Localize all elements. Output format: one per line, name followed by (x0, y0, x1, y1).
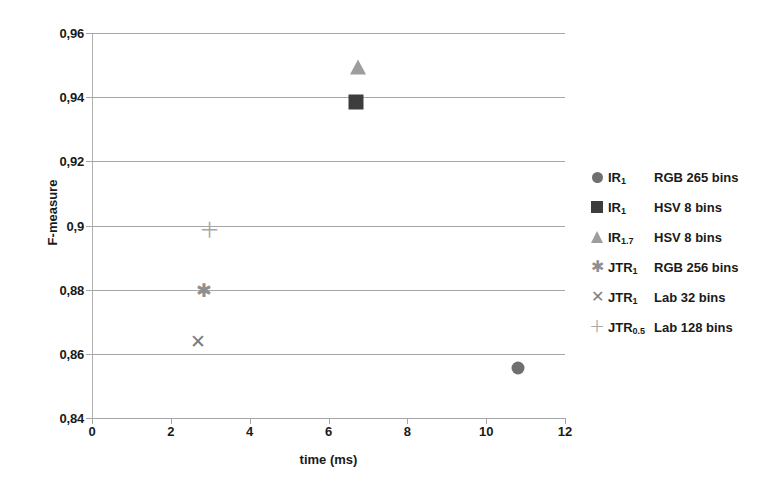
legend-marker-square-filled-icon (588, 198, 606, 216)
legend-key: JTR1 (606, 260, 654, 275)
x-tick-label: 4 (246, 424, 253, 439)
y-tick-label: 0,88 (59, 282, 84, 297)
legend-key: IR1 (606, 200, 654, 215)
x-tick-label: 12 (558, 424, 572, 439)
legend-description: HSV 8 bins (654, 230, 722, 245)
data-point-1 (349, 94, 364, 109)
data-point-0 (511, 361, 524, 374)
legend-key: JTR1 (606, 290, 654, 305)
x-axis-title: time (ms) (92, 452, 565, 467)
legend-marker-shape: ✕ (591, 289, 604, 305)
y-tick-mark (86, 97, 92, 98)
plot-area: ✱✕＋ (92, 33, 565, 418)
legend-marker-shape (591, 201, 603, 213)
gridline (92, 33, 565, 34)
y-tick-mark (86, 354, 92, 355)
legend-key-subscript: 1 (633, 296, 638, 306)
gridline (92, 97, 565, 98)
y-tick-mark (86, 161, 92, 162)
y-tick-label: 0,9 (67, 218, 84, 233)
legend-marker-plus-icon: ＋ (588, 318, 606, 336)
legend-key: IR1.7 (606, 230, 654, 245)
data-point-2 (350, 59, 366, 74)
y-tick-label: 0,96 (59, 26, 84, 41)
legend-row[interactable]: ✱JTR1RGB 256 bins (588, 252, 759, 282)
legend-row[interactable]: ＋JTR0.5Lab 128 bins (588, 312, 759, 342)
legend-marker-shape (591, 231, 603, 243)
legend-marker-triangle-filled-icon (588, 228, 606, 246)
legend-description: Lab 128 bins (654, 320, 733, 335)
legend-key: IR1 (606, 170, 654, 185)
y-tick-label: 0,84 (59, 411, 84, 426)
y-tick-mark (86, 290, 92, 291)
gridline (92, 290, 565, 291)
legend-description: Lab 32 bins (654, 290, 726, 305)
x-tick-label: 0 (88, 424, 95, 439)
legend-marker-shape: ✱ (591, 259, 604, 275)
legend-marker-cross-icon: ✕ (588, 288, 606, 306)
legend-marker-shape: ＋ (589, 319, 605, 335)
legend-key: JTR0.5 (606, 320, 654, 335)
x-tick-label: 10 (479, 424, 493, 439)
gridline (92, 161, 565, 162)
gridline (92, 226, 565, 227)
legend-row[interactable]: ✕JTR1Lab 32 bins (588, 282, 759, 312)
legend-key-subscript: 0.5 (633, 326, 646, 336)
scatter-chart-figure: ✱✕＋ 0,840,860,880,90,920,940,96 02468101… (0, 0, 759, 491)
x-tick-label: 6 (325, 424, 332, 439)
y-tick-label: 0,86 (59, 346, 84, 361)
legend-key-subscript: 1 (621, 176, 626, 186)
y-axis-title: F-measure (45, 153, 60, 273)
legend-row[interactable]: IR1RGB 265 bins (588, 162, 759, 192)
y-tick-label: 0,92 (59, 154, 84, 169)
y-tick-mark (86, 226, 92, 227)
x-tick-label: 8 (404, 424, 411, 439)
legend-row[interactable]: IR1HSV 8 bins (588, 192, 759, 222)
legend-marker-shape (592, 172, 603, 183)
data-point-5: ＋ (199, 218, 220, 239)
legend-row[interactable]: IR1.7HSV 8 bins (588, 222, 759, 252)
legend-marker-circle-filled-icon (588, 168, 606, 186)
legend-key-subscript: 1.7 (621, 236, 634, 246)
y-axis-tick-labels: 0,840,860,880,90,920,940,96 (0, 0, 84, 491)
y-tick-label: 0,94 (59, 90, 84, 105)
legend-description: HSV 8 bins (654, 200, 722, 215)
chart-legend: IR1RGB 265 binsIR1HSV 8 binsIR1.7HSV 8 b… (588, 162, 759, 342)
legend-key-subscript: 1 (621, 206, 626, 216)
legend-description: RGB 256 bins (654, 260, 739, 275)
legend-key-subscript: 1 (633, 266, 638, 276)
y-tick-mark (86, 33, 92, 34)
x-tick-label: 2 (167, 424, 174, 439)
gridline (92, 354, 565, 355)
legend-marker-asterisk-icon: ✱ (588, 258, 606, 276)
data-point-4: ✕ (190, 332, 206, 351)
legend-description: RGB 265 bins (654, 170, 739, 185)
data-point-3: ✱ (196, 280, 212, 299)
